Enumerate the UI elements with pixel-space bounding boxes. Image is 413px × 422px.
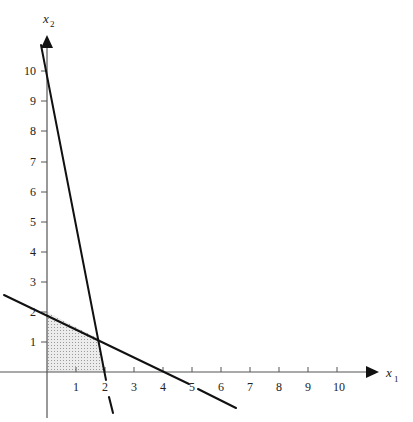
x-axis-arrow-icon — [366, 366, 379, 378]
y-ticks — [41, 71, 47, 342]
x-tick-labels: 1 2 3 4 5 6 7 8 9 10 — [73, 380, 345, 394]
x-tick-label: 3 — [131, 380, 137, 394]
y-tick-label: 7 — [30, 155, 36, 169]
x-tick-label: 5 — [189, 380, 195, 394]
x-tick-label: 10 — [333, 380, 345, 394]
x-tick-label: 9 — [305, 380, 311, 394]
x-tick-label: 7 — [247, 380, 253, 394]
x-tick-label: 4 — [160, 380, 166, 394]
y-tick-label: 9 — [30, 94, 36, 108]
x-ticks — [76, 367, 337, 372]
x-tick-label: 6 — [218, 380, 224, 394]
svg-text:x: x — [385, 365, 392, 380]
feasible-region — [47, 312, 105, 372]
y-tick-label: 4 — [30, 245, 36, 259]
y-tick-label: 5 — [30, 215, 36, 229]
y-tick-label: 1 — [30, 335, 36, 349]
x-tick-label: 8 — [276, 380, 282, 394]
y-tick-label: 6 — [30, 185, 36, 199]
y-axis-label: x 2 — [42, 11, 55, 29]
y-axis-arrow-icon — [41, 35, 53, 48]
y-tick-label: 8 — [30, 124, 36, 138]
x-tick-label: 2 — [102, 380, 108, 394]
svg-text:1: 1 — [394, 374, 399, 384]
y-tick-label: 3 — [30, 275, 36, 289]
constraint-line-shallow — [4, 295, 236, 408]
y-tick-label: 10 — [24, 64, 36, 78]
svg-text:2: 2 — [50, 19, 55, 29]
x-axis-label: x 1 — [385, 365, 399, 384]
lp-feasible-region-chart: 1 2 3 4 5 6 7 8 9 10 1 2 3 4 5 6 7 8 9 1… — [0, 0, 413, 422]
x-tick-label: 1 — [73, 380, 79, 394]
svg-text:x: x — [42, 11, 49, 26]
